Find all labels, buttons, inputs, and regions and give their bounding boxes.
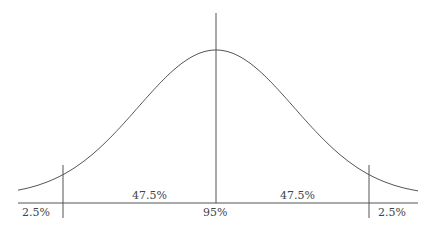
left-tail-label: 2.5% (22, 206, 50, 219)
center-label: 95% (203, 206, 227, 219)
bell-curve (18, 50, 418, 191)
normal-curve-diagram: 2.5% 47.5% 95% 47.5% 2.5% (0, 0, 436, 230)
right-center-label: 47.5% (280, 189, 315, 202)
left-center-label: 47.5% (132, 189, 167, 202)
right-tail-label: 2.5% (378, 206, 406, 219)
